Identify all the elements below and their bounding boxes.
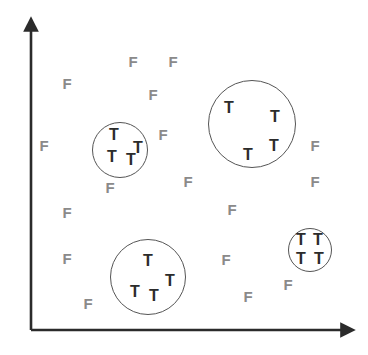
cluster-top-right [208, 80, 296, 168]
cluster-left [92, 122, 148, 178]
cluster-scatter-diagram: TTTTTTTTTTTTTTTTFFFFFFFFFFFFFFFFF [0, 0, 368, 355]
clusters-layer [0, 0, 368, 355]
cluster-bottom-left [110, 239, 186, 315]
cluster-bottom-right [288, 228, 332, 272]
